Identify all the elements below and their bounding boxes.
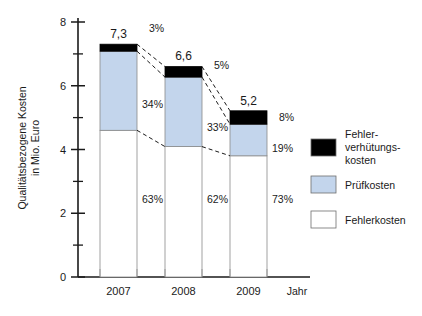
bar-segment-2008-fehlerverhuetungskosten[interactable] bbox=[165, 67, 202, 78]
y-tick-label-8: 8 bbox=[60, 16, 66, 28]
pct-label-2007-blue: 34% bbox=[142, 98, 163, 110]
total-label-2009: 5,2 bbox=[240, 94, 257, 108]
pct-label-2009-black: 8% bbox=[279, 111, 294, 123]
pct-label-2007-black: 3% bbox=[149, 22, 164, 34]
y-tick-label-0: 0 bbox=[60, 271, 66, 283]
legend-label-pruefkosten: Prüfkosten bbox=[345, 179, 395, 191]
bar-segment-2008-pruefkosten[interactable] bbox=[165, 77, 202, 147]
y-axis-title: Qualitätsbezogene Kosten in Mio. Euro bbox=[16, 86, 41, 209]
total-label-2008: 6,6 bbox=[175, 49, 192, 63]
x-tick-label-2008: 2008 bbox=[171, 285, 195, 297]
chart-container: 8 6 4 2 0 Qualitätsbezogene Kosten in Mi… bbox=[0, 0, 422, 316]
bar-segment-2007-pruefkosten[interactable] bbox=[100, 51, 137, 130]
legend: Fehler- verhütungs- kosten Prüfkosten Fe… bbox=[311, 128, 406, 228]
bar-segment-2008-fehlerkosten[interactable] bbox=[165, 147, 202, 277]
legend-swatch-fehlerverhuetungskosten bbox=[311, 139, 336, 156]
x-tick-label-2009: 2009 bbox=[236, 285, 260, 297]
pct-label-2009-blue: 19% bbox=[272, 142, 293, 154]
x-tick-label-2007: 2007 bbox=[106, 285, 130, 297]
connector-blackblue-2008-2009 bbox=[202, 77, 230, 124]
bar-group-2008[interactable] bbox=[165, 67, 202, 277]
bar-segment-2007-fehlerverhuetungskosten[interactable] bbox=[100, 44, 137, 51]
bar-segment-2009-pruefkosten[interactable] bbox=[230, 124, 267, 156]
connector-top-2007-2008 bbox=[137, 44, 165, 66]
stacked-bar-chart: 8 6 4 2 0 Qualitätsbezogene Kosten in Mi… bbox=[0, 0, 422, 316]
y-axis-title-line2: in Mio. Euro bbox=[29, 120, 41, 176]
legend-item-fehlerkosten[interactable]: Fehlerkosten bbox=[311, 211, 406, 228]
bar-group-2007[interactable] bbox=[100, 44, 137, 277]
total-label-2007: 7,3 bbox=[110, 27, 127, 41]
legend-item-pruefkosten[interactable]: Prüfkosten bbox=[311, 176, 395, 193]
pct-label-2009-white: 73% bbox=[272, 193, 293, 205]
y-axis-title-line1: Qualitätsbezogene Kosten bbox=[16, 86, 28, 209]
bar-group-2009[interactable] bbox=[230, 111, 267, 277]
x-axis-title: Jahr bbox=[287, 285, 308, 297]
connector-top-2008-2009 bbox=[202, 67, 230, 111]
bar-segment-2007-fehlerkosten[interactable] bbox=[100, 130, 137, 277]
legend-swatch-pruefkosten bbox=[311, 176, 336, 193]
bar-segment-2009-fehlerverhuetungskosten[interactable] bbox=[230, 111, 267, 124]
y-tick-label-6: 6 bbox=[60, 80, 66, 92]
connector-bluewhite-2008-2009 bbox=[202, 147, 230, 156]
pct-label-2008-white: 62% bbox=[207, 193, 228, 205]
pct-label-2008-blue: 33% bbox=[207, 121, 228, 133]
y-tick-label-4: 4 bbox=[60, 144, 66, 156]
y-tick-label-2: 2 bbox=[60, 207, 66, 219]
legend-label-fehlerverhuetungskosten-line2: verhütungs- bbox=[345, 141, 401, 153]
bar-segment-2009-fehlerkosten[interactable] bbox=[230, 156, 267, 277]
legend-label-fehlerverhuetungskosten-line3: kosten bbox=[345, 154, 376, 166]
connector-bluewhite-2007-2008 bbox=[137, 130, 165, 146]
pct-label-2007-white: 63% bbox=[142, 193, 163, 205]
pct-label-2008-black: 5% bbox=[214, 59, 229, 71]
legend-swatch-fehlerkosten bbox=[311, 211, 336, 228]
legend-label-fehlerkosten: Fehlerkosten bbox=[345, 214, 406, 226]
legend-label-fehlerverhuetungskosten-line1: Fehler- bbox=[345, 128, 379, 140]
legend-item-fehlerverhuetungskosten[interactable]: Fehler- verhütungs- kosten bbox=[311, 128, 401, 166]
